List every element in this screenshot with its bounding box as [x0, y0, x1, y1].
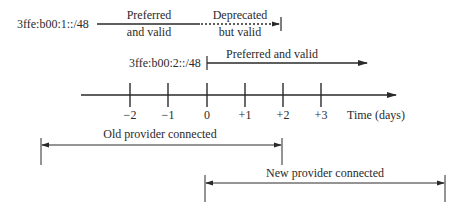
prefix-2-label: 3ffe:b00:2::/48 [129, 56, 201, 70]
prefix-1-timeline: 3ffe:b00:1::/48 Preferred and valid Depr… [17, 8, 281, 39]
prefix-lifetime-diagram: 3ffe:b00:1::/48 Preferred and valid Depr… [0, 0, 466, 214]
prefix-2-timeline: 3ffe:b00:2::/48 Preferred and valid [129, 47, 367, 70]
tick-label: −1 [162, 108, 175, 122]
old-provider-span: Old provider connected [41, 127, 282, 165]
diagram-canvas: 3ffe:b00:1::/48 Preferred and valid Depr… [0, 0, 466, 214]
prefix-1-label: 3ffe:b00:1::/48 [17, 17, 89, 31]
new-provider-span: New provider connected [205, 166, 445, 202]
tick-label: −2 [124, 108, 137, 122]
tick-label: +3 [315, 108, 328, 122]
segment-1-label-line1: Preferred [127, 8, 172, 22]
tick-label: +1 [239, 108, 252, 122]
time-axis-label: Time (days) [347, 108, 405, 122]
segment-2-label-line2: but valid [219, 25, 261, 39]
prefix-2-segment-label: Preferred and valid [226, 47, 318, 61]
old-provider-label: Old provider connected [103, 127, 216, 141]
segment-2-label-line1: Deprecated [213, 8, 268, 22]
time-axis: −2 −1 0 +1 +2 +3 Time (days) [81, 83, 405, 122]
tick-label: 0 [204, 108, 210, 122]
tick-label: +2 [277, 108, 290, 122]
new-provider-label: New provider connected [266, 166, 384, 180]
segment-1-label-line2: and valid [127, 25, 171, 39]
